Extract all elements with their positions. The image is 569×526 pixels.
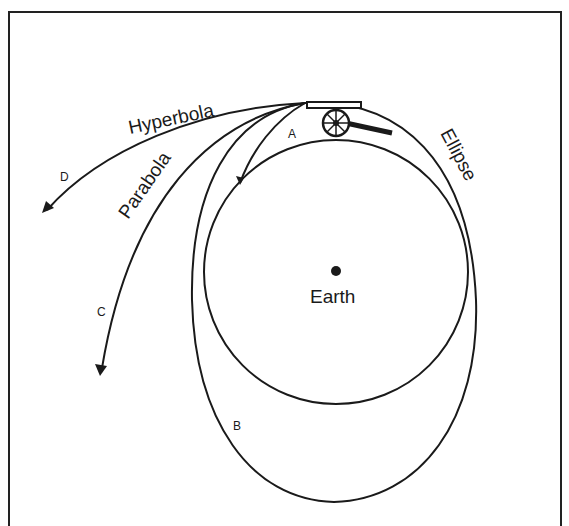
label-ellipse: Ellipse xyxy=(436,125,481,184)
mountain-platform xyxy=(307,102,361,108)
label-b: B xyxy=(233,419,241,433)
label-hyperbola: Hyperbola xyxy=(126,99,216,138)
label-a: A xyxy=(288,127,296,141)
label-earth: Earth xyxy=(310,286,355,307)
arrow-d-icon xyxy=(42,201,54,213)
label-parabola: Parabola xyxy=(114,148,175,223)
label-d: D xyxy=(60,170,69,184)
label-c: C xyxy=(97,305,106,319)
earth-center-dot xyxy=(331,266,341,276)
parabola-trajectory-c xyxy=(102,103,305,368)
arrow-c-icon xyxy=(95,364,107,376)
cannon-icon xyxy=(323,110,392,136)
